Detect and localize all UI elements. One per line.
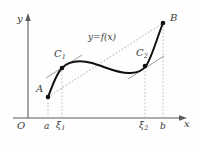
- point-a: [46, 95, 51, 100]
- point-label-a: A: [36, 84, 43, 94]
- tick-label-a: a: [44, 122, 49, 131]
- point-c2: [143, 64, 148, 69]
- tick-label-b: b: [160, 122, 166, 131]
- point-c1: [60, 66, 65, 71]
- point-label-c1: C1: [54, 49, 66, 61]
- point-b: [161, 21, 166, 26]
- tick-label-xi1: ξ1: [56, 121, 65, 132]
- y-axis: [25, 13, 30, 118]
- tick-label-xi1-sub: 1: [61, 124, 65, 132]
- point-label-c1-sym: C: [54, 48, 62, 59]
- x-axis-label: x: [184, 119, 190, 129]
- point-label-c2-sub: 2: [144, 52, 148, 60]
- point-label-b: B: [170, 13, 177, 23]
- tick-label-xi2: ξ2: [139, 121, 148, 132]
- diagram-svg: [0, 0, 197, 155]
- origin-label: O: [17, 121, 25, 131]
- point-label-c2-sym: C: [136, 47, 144, 58]
- point-label-c2: C2: [136, 48, 148, 60]
- tick-label-xi2-sub: 2: [144, 124, 148, 132]
- figure-canvas: y x O a ξ1 ξ2 b A B C1 C2 y=f(x): [0, 0, 197, 155]
- function-annotation: y=f(x): [88, 33, 116, 42]
- point-label-c1-sub: 1: [62, 53, 66, 61]
- x-axis: [13, 115, 187, 120]
- y-axis-label: y: [17, 14, 23, 24]
